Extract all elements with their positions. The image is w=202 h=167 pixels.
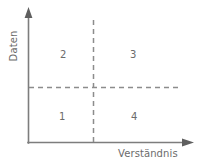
quadrant-label-upper-right: 3 [130, 50, 137, 60]
diagram-canvas [0, 0, 202, 167]
quadrant-label-upper-left: 2 [60, 50, 67, 60]
quadrant-label-lower-left: 1 [59, 112, 66, 122]
y-axis-label: Daten [9, 31, 19, 62]
y-axis-up-arrow-icon [25, 7, 33, 18]
x-axis-right-arrow-icon [182, 139, 194, 147]
x-axis-label: Verständnis [118, 149, 178, 159]
quadrant-diagram: Daten Verständnis 2 3 1 4 [0, 0, 202, 167]
quadrant-label-lower-right: 4 [131, 112, 138, 122]
